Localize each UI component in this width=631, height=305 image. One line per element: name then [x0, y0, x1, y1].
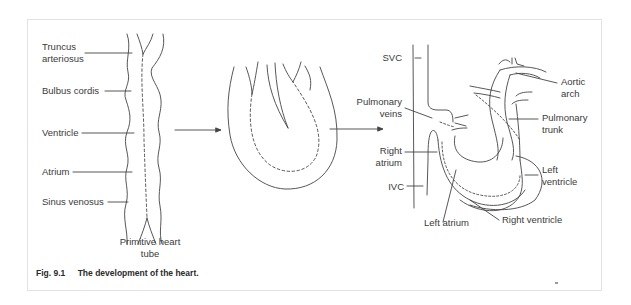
label-line: veins: [340, 108, 402, 120]
label-ventricle: Ventricle: [42, 127, 78, 139]
label-bulbus-cordis: Bulbus cordis: [42, 85, 99, 97]
label-line: Aortic: [561, 76, 585, 88]
label-sinus-venosus: Sinus venosus: [42, 196, 104, 208]
label-line: tube: [114, 248, 186, 260]
primitive-heart-tube: [73, 34, 164, 244]
label-left-atrium: Left atrium: [424, 217, 469, 229]
figure-title: The development of the heart.: [78, 268, 199, 278]
label-right-ventricle: Right ventricle: [502, 214, 562, 226]
label-pulmonary-trunk: Pulmonary trunk: [542, 112, 587, 136]
heart-development-diagram: [0, 0, 631, 305]
label-line: Pulmonary: [340, 96, 402, 108]
label-atrium: Atrium: [42, 166, 69, 178]
arrow-1: [175, 128, 221, 132]
label-line: atrium: [350, 157, 402, 169]
label-line: Right: [350, 145, 402, 157]
label-line: trunk: [542, 124, 587, 136]
label-svc: SVC: [360, 52, 402, 64]
label-line: Left: [542, 164, 577, 176]
label-primitive-heart-tube: Primitive heart tube: [114, 236, 186, 260]
developed-heart: [405, 45, 557, 222]
label-left-ventricle: Left ventricle: [542, 164, 577, 188]
figure-number: Fig. 9.1: [36, 268, 65, 278]
label-truncus-arteriosus: Truncus arteriosus: [42, 41, 84, 65]
label-ivc: IVC: [360, 181, 404, 193]
label-aortic-arch: Aortic arch: [561, 76, 585, 100]
label-line: Primitive heart: [114, 236, 186, 248]
label-line: Pulmonary: [542, 112, 587, 124]
label-right-atrium: Right atrium: [350, 145, 402, 169]
arrow-2: [330, 127, 383, 131]
page-mark: [555, 282, 558, 284]
label-pulmonary-veins: Pulmonary veins: [340, 96, 402, 120]
looping-heart-tube: [228, 62, 337, 189]
figure-caption: Fig. 9.1 The development of the heart.: [36, 268, 199, 278]
label-line: arteriosus: [42, 53, 84, 65]
label-line: arch: [561, 88, 585, 100]
label-line: Truncus: [42, 41, 84, 53]
label-line: ventricle: [542, 176, 577, 188]
